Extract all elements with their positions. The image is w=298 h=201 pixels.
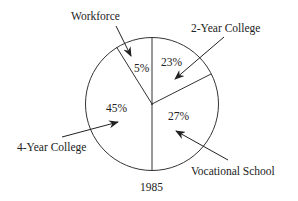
label-four-year-college: 4-Year College: [17, 141, 86, 154]
label-two-year-college: 2-Year College: [191, 22, 260, 35]
chart-caption-year: 1985: [140, 181, 163, 193]
label-vocational-school: Vocational School: [191, 165, 275, 177]
slice-value-two-year: 23%: [161, 56, 183, 68]
slice-value-vocational: 27%: [168, 110, 190, 122]
slice-value-four-year: 45%: [106, 102, 128, 114]
slice-value-workforce: 5%: [134, 62, 150, 74]
pie-chart: 5% 23% 45% 27% Workforce 2-Year College …: [0, 0, 298, 201]
pie-center: [151, 103, 153, 105]
label-workforce: Workforce: [71, 10, 120, 22]
